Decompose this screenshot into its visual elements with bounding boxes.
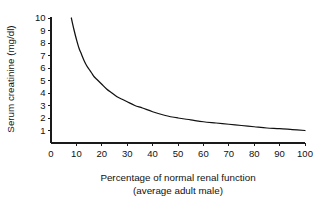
x-tick-label-60: 60 <box>198 148 209 159</box>
x-tick-label-0: 0 <box>48 148 53 159</box>
y-tick-label-9: 9 <box>40 25 45 36</box>
x-tick-label-90: 90 <box>274 148 285 159</box>
y-tick-label-8: 8 <box>40 37 45 48</box>
y-tick-label-10: 10 <box>35 12 46 23</box>
chart-figure: 12345678910 0102030405060708090100 Serum… <box>0 0 324 209</box>
x-axis-tick-labels: 0102030405060708090100 <box>48 148 313 159</box>
x-tick-label-80: 80 <box>249 148 260 159</box>
chart-plot-area: 12345678910 0102030405060708090100 Serum… <box>0 0 324 209</box>
x-tick-label-40: 40 <box>147 148 158 159</box>
y-tick-label-2: 2 <box>40 112 45 123</box>
y-tick-label-7: 7 <box>40 50 45 61</box>
y-tick-label-6: 6 <box>40 62 45 73</box>
x-axis-title: Percentage of normal renal function <box>100 172 255 183</box>
y-axis-title: Serum creatinine (mg/dl) <box>5 25 16 132</box>
y-tick-label-5: 5 <box>40 75 45 86</box>
axes <box>51 17 305 143</box>
x-tick-label-50: 50 <box>173 148 184 159</box>
x-axis-title-second-line: (average adult male) <box>133 185 223 196</box>
x-tick-label-100: 100 <box>297 148 313 159</box>
x-tick-label-10: 10 <box>71 148 82 159</box>
y-tick-label-1: 1 <box>40 125 45 136</box>
x-tick-label-70: 70 <box>224 148 235 159</box>
x-tick-label-30: 30 <box>122 148 133 159</box>
x-tick-label-20: 20 <box>97 148 108 159</box>
y-tick-label-4: 4 <box>40 87 45 98</box>
y-axis-tick-labels: 12345678910 <box>35 12 46 135</box>
data-series-curve <box>71 18 305 131</box>
y-tick-label-3: 3 <box>40 100 45 111</box>
